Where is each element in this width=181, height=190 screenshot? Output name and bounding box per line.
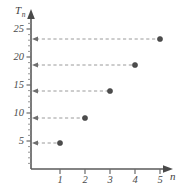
y-tick-label-25: 25 (14, 23, 25, 34)
guide-arrow-2-icon (32, 115, 38, 120)
y-tick-label-5: 5 (19, 135, 24, 146)
x-axis-title: n (170, 170, 176, 182)
x-axis-tick-labels: 1 2 3 4 5 (57, 174, 162, 185)
x-tick-label-5: 5 (157, 174, 162, 185)
guide-arrow-4-icon (32, 62, 38, 67)
data-point (57, 140, 62, 145)
guide-arrow-5-icon (32, 36, 38, 41)
y-tick-label-10: 10 (14, 107, 25, 118)
guide-arrow-3-icon (32, 88, 38, 93)
axis-titles: Tn n (15, 4, 176, 182)
y-axis-tick-labels: 5 10 15 20 25 (14, 23, 25, 146)
y-axis-title: Tn (15, 4, 26, 19)
guide-lines-group (32, 36, 160, 145)
x-tick-label-2: 2 (82, 174, 88, 185)
y-axis-title-subscript: n (22, 10, 26, 19)
data-point (107, 88, 112, 93)
x-tick-label-4: 4 (132, 174, 138, 185)
y-axis-arrow-icon (27, 9, 35, 19)
y-tick-label-20: 20 (14, 51, 25, 62)
data-point (132, 62, 137, 67)
chart-canvas: 5 10 15 20 25 1 2 3 4 5 (0, 0, 181, 190)
y-tick-label-15: 15 (14, 79, 25, 90)
x-tick-label-1: 1 (57, 174, 62, 185)
data-point (157, 36, 162, 41)
guide-arrow-1-icon (32, 140, 38, 145)
scatter-chart: 5 10 15 20 25 1 2 3 4 5 (0, 0, 181, 190)
x-tick-label-3: 3 (106, 174, 112, 185)
data-point (82, 115, 87, 120)
